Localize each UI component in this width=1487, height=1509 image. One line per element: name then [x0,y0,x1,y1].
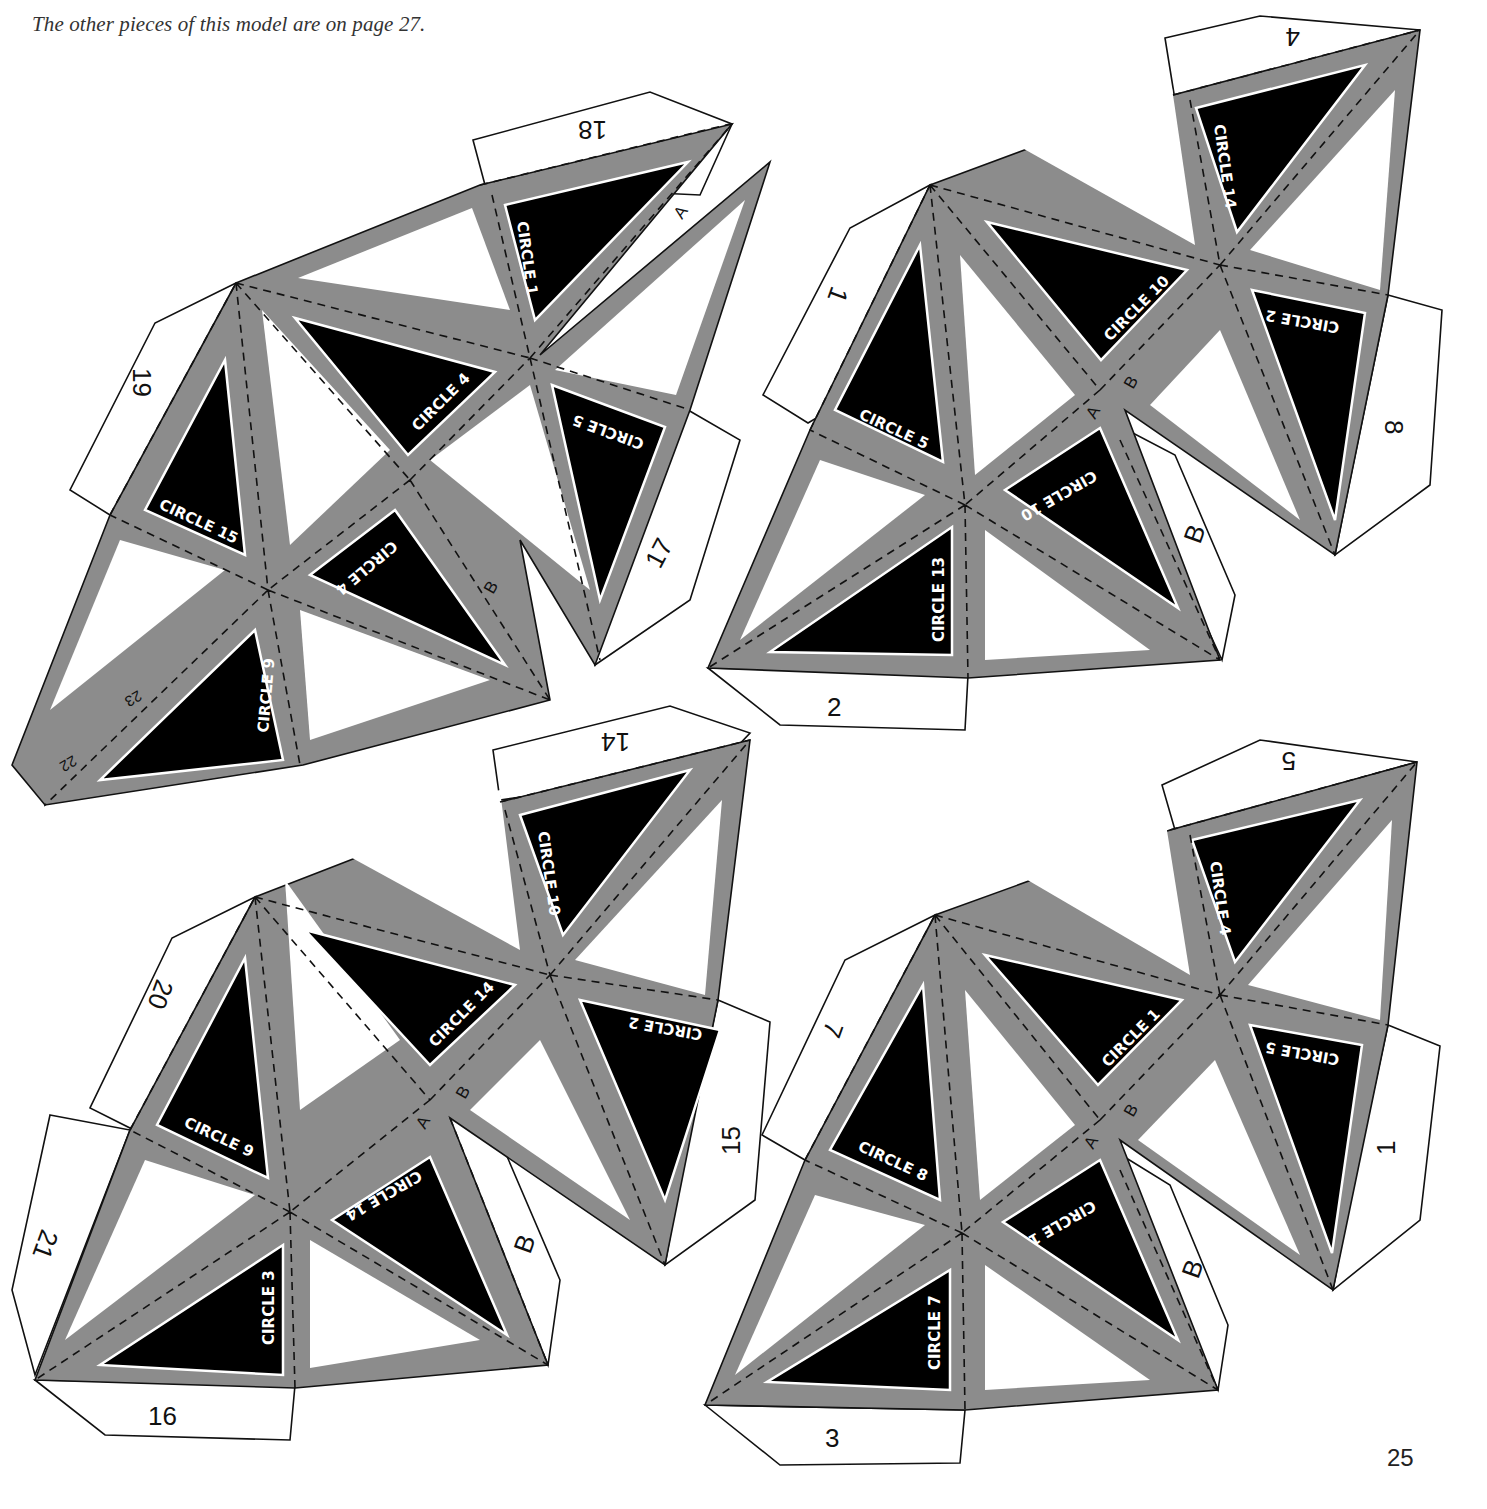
face-label: CIRCLE 13 [930,557,948,642]
tab-number-8: 8 [1379,420,1409,434]
net-top-right: CIRCLE 14 CIRCLE 10 CIRCLE 2 CIRCLE 5 CI… [708,16,1442,730]
net-bottom-right: CIRCLE 4 CIRCLE 1 CIRCLE 5 CIRCLE 8 CIRC… [705,740,1440,1465]
tab-number-3: 3 [825,1423,839,1453]
tab-number-1: 1 [1371,1141,1401,1155]
face-label: CIRCLE 7 [926,1295,944,1370]
page-number: 25 [1387,1444,1414,1472]
tab-number-16: 16 [148,1401,177,1431]
net-bottom-left: CIRCLE 10 CIRCLE 14 CIRCLE 2 CIRCLE 9 CI… [12,706,770,1440]
tab-number-4: 4 [1286,22,1300,52]
edge-letter-a: A [670,202,692,223]
tab-number-15: 15 [716,1126,746,1155]
net-top-left: CIRCLE 1 CIRCLE 4 CIRCLE 5 CIRCLE 15 CIR… [12,92,770,805]
tab-number-14: 14 [601,727,630,757]
tab-number-18: 18 [578,115,607,145]
tab-number-19: 19 [127,368,157,397]
tab-number-5: 5 [1282,746,1296,776]
tab-number-2: 2 [827,692,841,722]
face-label: CIRCLE 3 [260,1270,278,1345]
